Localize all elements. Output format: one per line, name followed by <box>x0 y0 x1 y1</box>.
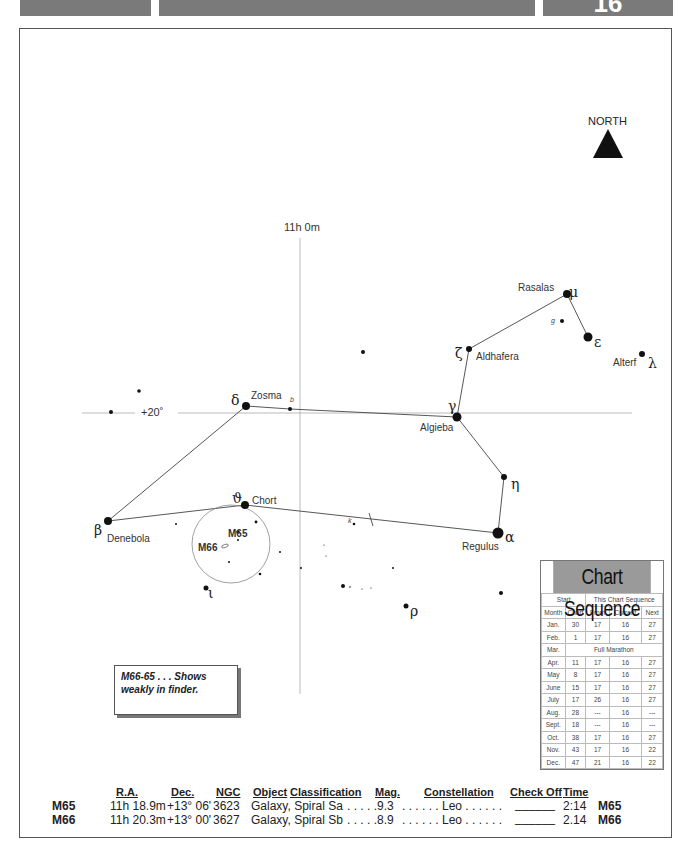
constellation-value: . . . . . . Leo . . . . . . <box>402 813 502 827</box>
table-row: Mar.Full Marathon <box>542 644 663 657</box>
cell: --- <box>586 706 609 719</box>
star-lambda-greek: λ <box>648 355 657 371</box>
chart-sequence-table: Chart Sequence Start This Chart Sequence… <box>540 560 664 770</box>
cell: --- <box>586 719 609 732</box>
object-id: M65 <box>52 799 75 813</box>
object-id-end: M66 <box>598 813 621 827</box>
star-zosma-label: Zosma <box>251 390 282 401</box>
cell: 15 <box>565 681 586 694</box>
table-row: Nov.43171622 <box>542 744 663 757</box>
cell: 43 <box>565 744 586 757</box>
star-mu-greek: μ <box>569 284 578 300</box>
star-zeta-greek: ζ <box>455 345 463 361</box>
col-header: Next <box>642 606 663 619</box>
cell: --- <box>642 719 663 732</box>
cell: 16 <box>609 631 642 644</box>
header-classification: Classification <box>290 786 362 798</box>
cell: 17 <box>586 656 609 669</box>
object-m65-label: M65 <box>228 528 247 539</box>
north-compass: NORTH <box>588 115 627 127</box>
dec-value: +13° 06' <box>167 799 211 813</box>
header-constellation: Constellation <box>424 786 494 798</box>
cell: --- <box>642 706 663 719</box>
constellation-value: . . . . . . Leo . . . . . . <box>402 799 502 813</box>
cell: 27 <box>642 681 663 694</box>
cell: 27 <box>642 619 663 632</box>
table-row: May8171627 <box>542 669 663 682</box>
table-row: Aug.28---16--- <box>542 706 663 719</box>
cell: 17 <box>586 731 609 744</box>
observing-note: M66-65 . . . Shows weakly in finder. <box>114 665 238 715</box>
star-alpha-greek: α <box>505 529 514 545</box>
time-value: 2:14 <box>563 799 586 813</box>
cell: 17 <box>586 744 609 757</box>
cell: 16 <box>609 719 642 732</box>
table-row: July17261627 <box>542 694 663 707</box>
cell: 11 <box>565 656 586 669</box>
header-object: Object <box>253 786 287 798</box>
object-type: Galaxy, Spiral Sa <box>251 799 343 813</box>
ra-grid-label: 11h 0m <box>284 221 320 233</box>
cell: 17 <box>586 669 609 682</box>
table-row: June15171627 <box>542 681 663 694</box>
ngc-value: 3627 <box>213 813 240 827</box>
star-epsilon-greek: ε <box>594 334 601 350</box>
cell: 38 <box>565 731 586 744</box>
star-b-label: b <box>290 396 294 403</box>
cell: 27 <box>642 731 663 744</box>
cell: Nov. <box>542 744 566 757</box>
object-m66-label: M66 <box>198 542 217 553</box>
cell: July <box>542 694 566 707</box>
object-type: Galaxy, Spiral Sb <box>251 813 343 827</box>
cell: Aug. <box>542 706 566 719</box>
mag-value: . . . . .8.9 <box>347 813 394 827</box>
cell: 27 <box>642 631 663 644</box>
cell: 26 <box>586 694 609 707</box>
star-alterf-label: Alterf <box>613 357 636 368</box>
cell: 8 <box>565 669 586 682</box>
table-row: Sept.18---16--- <box>542 719 663 732</box>
table-row: Apr.11171627 <box>542 656 663 669</box>
cell: 18 <box>565 719 586 732</box>
cell: 17 <box>586 681 609 694</box>
star-g-label: g <box>551 317 555 324</box>
cell: Oct. <box>542 731 566 744</box>
cell: 27 <box>642 656 663 669</box>
chart-sequence-title: Chart Sequence <box>553 561 651 593</box>
cell: 17 <box>586 631 609 644</box>
ra-value: 11h 18.9m <box>110 799 166 813</box>
dec-value: +13° 00' <box>167 813 211 827</box>
star-eta-greek: η <box>511 476 519 492</box>
cell: Apr. <box>542 656 566 669</box>
table-row: Dec.47211622 <box>542 756 663 769</box>
cell: Jan. <box>542 619 566 632</box>
dec-grid-label: +20˚ <box>141 406 163 418</box>
cell: 22 <box>642 756 663 769</box>
north-label: NORTH <box>588 115 627 127</box>
star-iota-greek: ι <box>208 585 214 601</box>
object-id: M66 <box>52 813 75 827</box>
cell: Full Marathon <box>565 644 662 657</box>
ra-value: 11h 20.3m <box>110 813 166 827</box>
cell: 28 <box>565 706 586 719</box>
star-aldhafera-label: Aldhafera <box>476 351 519 362</box>
time-value: 2.14 <box>563 813 586 827</box>
cell: June <box>542 681 566 694</box>
cell: 21 <box>586 756 609 769</box>
object-id-end: M65 <box>598 799 621 813</box>
star-rasalas-label: Rasalas <box>518 282 554 293</box>
check-off-field[interactable]: ______ <box>515 797 555 811</box>
cell: 16 <box>609 681 642 694</box>
cell: May <box>542 669 566 682</box>
cell: 16 <box>609 756 642 769</box>
cell: 16 <box>609 669 642 682</box>
star-theta-greek: ϑ <box>232 490 242 506</box>
header-ngc: NGC <box>216 786 240 798</box>
header-dec: Dec. <box>171 786 194 798</box>
star-rho-greek: ρ <box>410 603 418 619</box>
note-text: M66-65 . . . Shows weakly in finder. <box>121 671 207 695</box>
star-regulus-label: Regulus <box>462 541 499 552</box>
check-off-field[interactable]: ______ <box>515 811 555 825</box>
table-row: Feb.1171627 <box>542 631 663 644</box>
mag-value: . . . . .9.3 <box>347 799 394 813</box>
